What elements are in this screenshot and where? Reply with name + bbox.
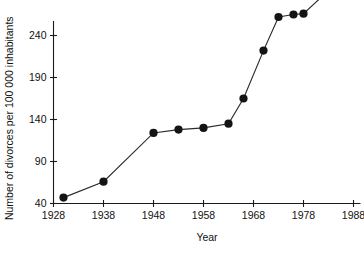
y-axis-tick-label: 90: [35, 155, 47, 167]
x-axis-tick-label: 1988: [342, 209, 364, 221]
x-axis-tick-labels: 1928193819481958196819781988: [42, 209, 364, 221]
x-axis-title: Year: [196, 231, 218, 243]
data-point-marker: [59, 194, 67, 202]
y-axis-tick-label: 240: [29, 29, 47, 41]
divorce-rate-line-chart: 4090140190240290 19281938194819581968197…: [0, 0, 364, 256]
data-point-marker: [99, 178, 107, 186]
chart-canvas: 4090140190240290 19281938194819581968197…: [0, 0, 364, 256]
data-point-marker: [239, 94, 247, 102]
y-axis-tick-label: 40: [35, 197, 47, 209]
data-point-marker: [259, 47, 267, 55]
data-point-marker: [199, 124, 207, 132]
series-line-divorces: [64, 0, 354, 198]
data-point-marker: [149, 129, 157, 137]
y-axis-title: Number of divorces per 100 000 inhabitan…: [3, 16, 15, 220]
x-axis-tick-label: 1948: [142, 209, 166, 221]
data-point-marker: [289, 10, 297, 18]
data-point-marker: [274, 13, 282, 21]
series-markers-divorces: [59, 0, 357, 202]
data-point-marker: [224, 120, 232, 128]
x-axis-tick-label: 1938: [92, 209, 116, 221]
y-axis-tick-labels: 4090140190240290: [29, 0, 47, 209]
series-group: [59, 0, 357, 202]
data-point-marker: [174, 125, 182, 133]
y-axis-tick-label: 140: [29, 113, 47, 125]
data-point-marker: [299, 10, 307, 18]
x-axis-tick-label: 1958: [192, 209, 216, 221]
x-axis-tick-label: 1968: [242, 209, 266, 221]
y-axis-tick-label: 190: [29, 71, 47, 83]
x-axis-tick-label: 1978: [292, 209, 316, 221]
x-axis-group: 1928193819481958196819781988: [42, 200, 364, 221]
x-axis-tick-label: 1928: [42, 209, 66, 221]
y-axis-group: 4090140190240290: [29, 0, 57, 209]
